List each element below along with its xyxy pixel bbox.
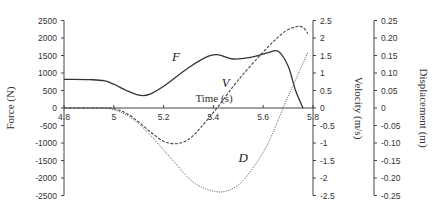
velocity-tick-label: 1 [320,68,325,78]
velocity-tick-label: -0.5 [320,121,335,131]
displacement-tick-label: -0.05 [381,121,401,131]
force-tick-label: 2000 [38,33,57,43]
displacement-tick-label: 0 [381,103,386,113]
series-f-line [64,50,303,108]
series-v-line [64,26,308,143]
velocity-tick-label: 2.5 [320,16,332,26]
curve-label-d: D [238,150,249,165]
force-tick-label: -1500 [35,156,57,166]
force-tick-label: -2500 [35,191,57,201]
velocity-tick-label: 0 [320,103,325,113]
displacement-tick-label: 0.05 [381,86,398,96]
velocity-tick-label: -2 [320,173,328,183]
force-axis-title: Force (N) [4,86,17,129]
displacement-tick-label: 0.25 [381,16,398,26]
force-tick-label: -1000 [35,138,57,148]
velocity-tick-label: 0.5 [320,86,332,96]
curve-label-v: V [222,75,232,90]
chart: 4.855.25.45.65.825002000150010005000-500… [0,0,444,215]
curve-label-f: F [171,49,181,64]
displacement-axis-title: Displacement (m) [417,68,430,147]
displacement-tick-label: 0.10 [381,68,398,78]
displacement-tick-label: -0.15 [381,156,401,166]
force-tick-label: -2000 [35,173,57,183]
x-tick-label: 5.2 [158,112,170,122]
x-tick-label: 5 [111,112,116,122]
series-d-line [64,52,308,192]
x-axis-title: Time (s) [195,92,233,105]
force-tick-label: 500 [43,86,57,96]
labels: Time (s)Force (N)Velocity (m/s)Displacem… [4,49,430,166]
force-tick-label: 0 [52,103,57,113]
force-tick-label: 2500 [38,16,57,26]
displacement-tick-label: 0.15 [381,51,398,61]
displacement-tick-label: -0.25 [381,191,401,201]
velocity-tick-label: 2 [320,33,325,43]
force-tick-label: -500 [40,121,57,131]
velocity-tick-label: -2.5 [320,191,335,201]
displacement-tick-label: -0.20 [381,173,401,183]
velocity-tick-label: -1.5 [320,156,335,166]
displacement-tick-label: 0.20 [381,33,398,43]
x-tick-label: 5.6 [257,112,269,122]
velocity-axis-title: Velocity (m/s) [352,77,365,140]
force-tick-label: 1500 [38,51,57,61]
series [64,26,308,192]
velocity-tick-label: -1 [320,138,328,148]
velocity-tick-label: 1.5 [320,51,332,61]
displacement-tick-label: -0.10 [381,138,401,148]
force-tick-label: 1000 [38,68,57,78]
